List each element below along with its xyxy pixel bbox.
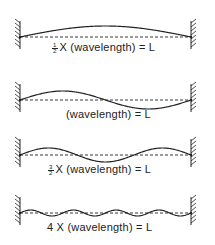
fraction-three-halves: 32 bbox=[48, 165, 54, 176]
label-one-wavelength: (wavelength) = L bbox=[66, 108, 151, 120]
label-four-wavelength: 4 X (wavelength) = L bbox=[47, 221, 152, 233]
label-half-wavelength: 12X (wavelength) = L bbox=[52, 41, 155, 54]
fraction-one-half: 12 bbox=[52, 43, 58, 54]
label-three-half-wavelength: 32X (wavelength) = L bbox=[48, 163, 151, 176]
wave-curves bbox=[19, 26, 192, 216]
standing-wave-diagram bbox=[0, 0, 215, 245]
wave-p1 bbox=[20, 26, 191, 37]
